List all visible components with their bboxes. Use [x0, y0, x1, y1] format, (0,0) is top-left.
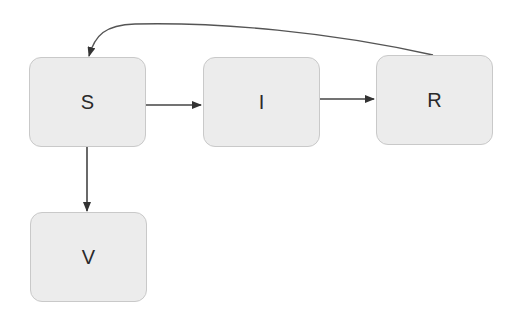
- node-r: R: [376, 55, 493, 145]
- node-i: I: [203, 57, 320, 147]
- node-s-label: S: [81, 91, 94, 114]
- node-v: V: [30, 212, 147, 302]
- node-r-label: R: [427, 89, 441, 112]
- node-i-label: I: [259, 91, 265, 114]
- edge-r-to-s: [89, 24, 433, 56]
- node-v-label: V: [82, 246, 95, 269]
- node-s: S: [29, 57, 146, 147]
